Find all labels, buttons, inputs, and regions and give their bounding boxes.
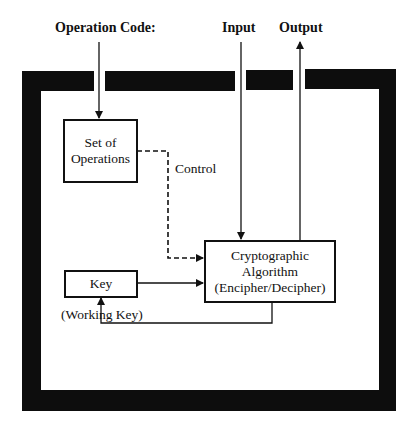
- crypto-line3: (Encipher/Decipher): [215, 280, 326, 296]
- connection-lines: [0, 0, 416, 430]
- set-of-operations-block: Set of Operations: [63, 119, 138, 183]
- cryptographic-algorithm-block: Cryptographic Algorithm (Encipher/Deciph…: [204, 240, 336, 303]
- control-label: Control: [175, 161, 216, 177]
- working-key-label: (Working Key): [61, 307, 143, 323]
- set-of-operations-line1: Set of: [71, 135, 130, 151]
- key-label: Key: [90, 276, 113, 292]
- crypto-line1: Cryptographic: [215, 248, 326, 264]
- crypto-line2: Algorithm: [215, 264, 326, 280]
- set-of-operations-line2: Operations: [71, 151, 130, 167]
- key-block: Key: [64, 270, 138, 298]
